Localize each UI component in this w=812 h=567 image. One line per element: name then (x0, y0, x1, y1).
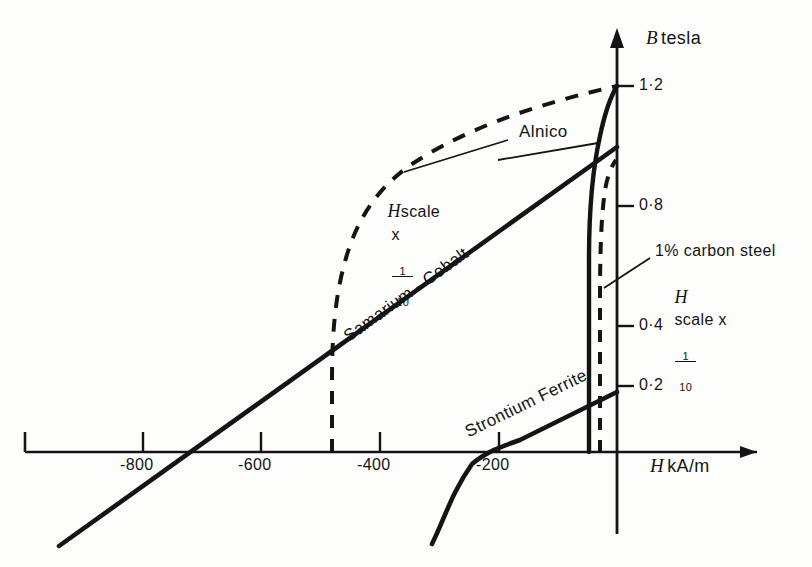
curve-carbon-steel (600, 160, 616, 452)
fraction-numerator-carbon-steel: 1 (675, 351, 696, 362)
annotation-alnico-h-scale-factor: x 1 10 (372, 202, 414, 352)
x-tick-label--600: -600 (238, 456, 272, 474)
y-axis-title-symbol: B (646, 27, 661, 48)
x-tick-label--400: -400 (357, 456, 391, 474)
y-axis-title: Btesla (646, 27, 701, 49)
x-tick-label--200: -200 (476, 456, 510, 474)
x-axis-title-unit: kA/m (667, 456, 710, 476)
h-scale-text-carbon-steel: scale x (674, 311, 727, 328)
leader-alnico-to-dashed (498, 143, 598, 160)
h-symbol-carbon-steel: H (674, 287, 687, 307)
multiplier-symbol-alnico: x (391, 226, 399, 243)
x-axis (25, 432, 757, 458)
curve-samarium-cobalt (59, 147, 617, 546)
fraction-one-tenth-carbon-steel: 1 10 (674, 331, 697, 412)
x-axis-title: HkA/m (650, 455, 710, 477)
y-axis-title-unit: tesla (661, 28, 701, 48)
fraction-numerator-alnico: 1 (392, 266, 413, 277)
leader-alnico-to-solid (404, 140, 508, 172)
leader-carbon-steel (604, 258, 650, 288)
curve-label-alnico: Alnico (519, 122, 568, 142)
y-tick-label-1-2: 1·2 (639, 76, 663, 94)
x-tick-label--800: -800 (120, 456, 154, 474)
fraction-denominator-carbon-steel: 10 (675, 382, 696, 392)
y-axis-arrowhead (610, 28, 624, 48)
x-axis-arrowhead (740, 446, 757, 458)
annotation-carbon-steel-line2: H scale x 1 10 (655, 264, 727, 437)
magnetisation-curve-figure: Btesla HkA/m 1·2 0·8 0·4 0·2 -800 -600 -… (0, 0, 812, 567)
x-axis-title-symbol: H (650, 455, 667, 476)
y-tick-label-0-8: 0·8 (639, 196, 663, 214)
annotation-carbon-steel-line1: 1% carbon steel (655, 240, 776, 262)
